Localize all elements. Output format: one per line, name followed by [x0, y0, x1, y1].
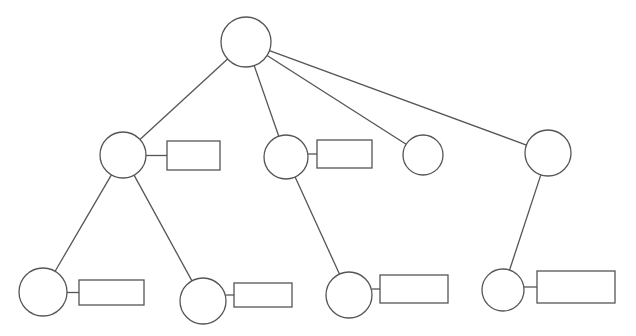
tree-edge	[134, 175, 192, 281]
tree-edge	[140, 59, 228, 140]
label-box-n1b	[234, 283, 292, 307]
tree-node-n1	[100, 132, 146, 178]
tree-node-n4	[525, 130, 571, 176]
tree-edge	[267, 55, 406, 144]
tree-edge	[269, 51, 526, 145]
label-box-n4a	[537, 271, 615, 303]
tree-nodes	[19, 17, 571, 324]
label-box-n1a	[79, 280, 144, 305]
tree-edge	[55, 175, 111, 271]
tree-node-n4a	[482, 269, 524, 311]
tree-node-root	[221, 17, 271, 67]
label-box-n2	[317, 140, 372, 168]
tree-node-n2a	[326, 272, 372, 318]
box-connectors	[67, 154, 537, 295]
tree-node-n1a	[19, 268, 67, 316]
tree-node-n1b	[180, 278, 226, 324]
tree-edge	[254, 66, 279, 137]
label-box-n2a	[380, 275, 448, 303]
tree-node-n2	[264, 135, 308, 179]
tree-edge	[510, 175, 541, 270]
label-box-n1	[167, 141, 220, 170]
tree-node-n3	[403, 135, 443, 175]
tree-edge	[295, 177, 339, 274]
tree-diagram	[0, 0, 636, 336]
